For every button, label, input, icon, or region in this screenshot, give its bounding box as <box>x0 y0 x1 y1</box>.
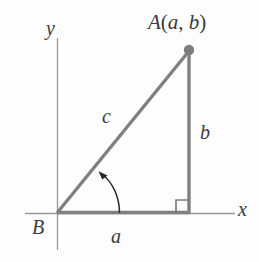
y-axis-label: y <box>46 18 55 38</box>
vertex-a-coord-y: b <box>189 10 200 34</box>
side-b-label: b <box>200 122 210 142</box>
vertex-a-label: A(a, b) <box>148 12 206 33</box>
side-a-label: a <box>111 226 121 246</box>
triangle-side-c <box>57 51 189 213</box>
vertex-a-coord-x: a <box>168 10 179 34</box>
vertex-a-name: A <box>148 10 161 34</box>
vertex-a-dot <box>184 45 194 55</box>
vertex-a-open-paren: ( <box>161 10 168 34</box>
geometry-figure: A(a, b) y x B c b a <box>0 0 259 262</box>
vertex-a-comma: , <box>178 10 189 34</box>
side-c-label: c <box>102 106 111 126</box>
vertex-a-close-paren: ) <box>199 10 206 34</box>
vertex-b-label: B <box>32 217 44 237</box>
x-axis-label: x <box>238 199 247 219</box>
angle-arc-icon <box>103 175 120 214</box>
